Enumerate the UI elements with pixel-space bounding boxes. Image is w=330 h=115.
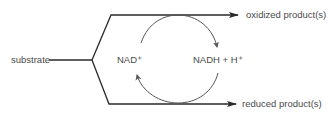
oxidized-products-label: oxidized product(s) [246,10,326,20]
reduced-products-label: reduced product(s) [242,99,322,109]
oxidation-arc-arrow [137,73,218,103]
nadh-label: NADH + H⁺ [193,55,243,65]
nad-plus-label: NAD⁺ [117,55,142,65]
reduction-arc-arrow [141,15,217,47]
substrate-label: substrate [11,55,50,65]
